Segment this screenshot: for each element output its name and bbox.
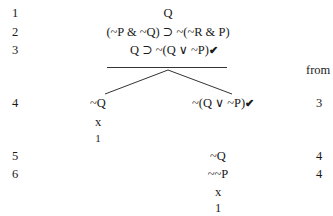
from-ref-5: 4 [316, 150, 322, 163]
left-branch-close-mark: x [95, 116, 101, 129]
from-ref-4: 3 [316, 97, 322, 110]
tree-branch-lines [0, 0, 333, 216]
right-branch-formula-6: ~~P [208, 168, 228, 181]
left-branch-formula-4: ~Q [90, 97, 106, 110]
right-branch-close-mark: x [215, 186, 221, 199]
right-branch-formula-4-text: ~(Q ∨ ~P) [192, 96, 245, 110]
left-branch-close-ref: 1 [95, 133, 101, 144]
right-branch-close-ref: 1 [215, 202, 221, 215]
right-branch-formula-5: ~Q [210, 150, 226, 163]
checkmark-icon: ✔ [245, 97, 254, 109]
right-branch-formula-4: ~(Q ∨ ~P)✔ [192, 97, 254, 110]
from-ref-6: 4 [316, 168, 322, 181]
left-branch-line [105, 70, 168, 94]
right-branch-line [168, 70, 232, 94]
